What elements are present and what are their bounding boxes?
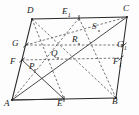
label-S: S [92,22,97,31]
label-G1: G1 [117,40,127,51]
dashed-line-F-F1 [22,58,121,60]
label-F1: F1 [113,57,122,68]
label-E1: E1 [62,7,71,18]
dot-S [98,30,100,32]
label-A: A [4,99,10,108]
label-F: F [10,57,16,66]
geometry-figure: D E1 C G S R G1 F Q F1 P A E B [0,0,139,115]
dashed-line-D-E [32,19,64,99]
dot-C [126,16,128,18]
label-G: G [12,39,19,48]
label-R: R [72,35,78,44]
label-P: P [29,62,35,71]
dot-D [31,18,33,20]
label-B: B [112,97,118,106]
label-Q: Q [51,49,58,58]
dashed-line-D-B [32,19,116,98]
dashed-line-E1-B [79,18,116,98]
label-C: C [123,4,129,13]
label-D: D [27,6,34,15]
dot-A [11,99,13,101]
label-E: E [57,99,63,108]
dot-R [78,43,80,45]
